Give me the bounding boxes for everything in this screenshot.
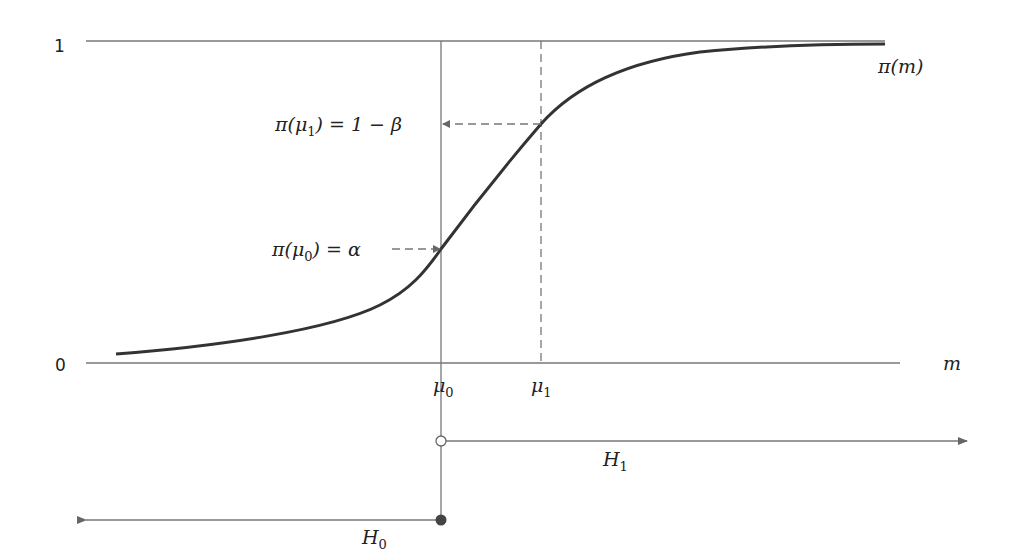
H1-label: H1 (602, 448, 628, 474)
H0-label: H0 (361, 526, 387, 552)
y-tick-zero: 0 (55, 355, 66, 375)
power-curve (116, 44, 885, 354)
curve-label: π(m) (877, 55, 923, 77)
x-axis-label: m (943, 352, 961, 374)
power-function-diagram: 1 0 m π(m) μ0 μ1 π(μ1) = 1 − β π(μ0) = α… (0, 0, 1013, 554)
pi-mu0-label: π(μ0) = α (271, 238, 361, 264)
pi-mu1-label: π(μ1) = 1 − β (274, 113, 402, 139)
mu1-label: μ1 (531, 374, 552, 400)
y-tick-one: 1 (54, 36, 65, 56)
filled-circle-marker (436, 515, 447, 526)
open-circle-marker (436, 436, 446, 446)
mu0-label: μ0 (433, 374, 454, 400)
